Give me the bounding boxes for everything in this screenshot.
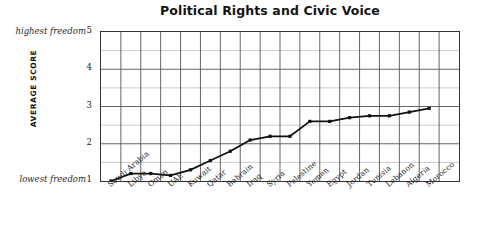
y-axis-title: AVERAGE SCORE: [29, 34, 38, 144]
data-point: [308, 120, 311, 123]
data-point: [268, 135, 271, 138]
plot-area: [100, 31, 460, 182]
data-point: [149, 172, 152, 175]
y-tick-5: 5: [74, 25, 92, 35]
y-tick-4: 4: [74, 62, 92, 72]
x-axis-tick-labels: Saudi ArabiaLibyaOmanUAEKuwaitQatarBahra…: [0, 180, 481, 239]
chart-title: Political Rights and Civic Voice: [120, 3, 420, 18]
data-point: [408, 110, 411, 113]
chart-plot-svg: [101, 32, 459, 181]
data-point: [288, 135, 291, 138]
data-point: [368, 114, 371, 117]
y-tick-2: 2: [74, 137, 92, 147]
data-point: [229, 150, 232, 153]
data-point: [249, 138, 252, 141]
data-point: [189, 168, 192, 171]
data-point: [209, 159, 212, 162]
data-point: [388, 114, 391, 117]
grid-lines: [101, 32, 459, 181]
data-point: [328, 120, 331, 123]
chart-container: Political Rights and Civic Voice highest…: [0, 0, 481, 239]
data-point: [348, 116, 351, 119]
data-point: [428, 107, 431, 110]
y-tick-3: 3: [74, 100, 92, 110]
